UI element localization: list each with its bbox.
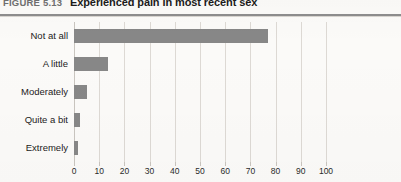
x-tick-label-90: 90: [296, 166, 305, 176]
figure-container: FIGURE 5.13 Experienced pain in most rec…: [0, 0, 401, 182]
bar-a-little: [74, 57, 108, 71]
gridline-50: [200, 22, 201, 162]
bar-not-at-all: [74, 29, 268, 43]
category-label-not-at-all: Not at all: [2, 30, 68, 41]
x-tick-label-30: 30: [145, 166, 154, 176]
gridline-70: [250, 22, 251, 162]
title-divider-rule-secondary: [0, 16, 401, 17]
figure-number-label: FIGURE 5.13: [3, 0, 62, 8]
gridline-100: [326, 22, 327, 162]
category-label-extremely: Extremely: [2, 142, 68, 153]
value-axis-tick-labels: 0102030405060708090100: [74, 166, 334, 180]
gridline-30: [150, 22, 151, 162]
gridline-10: [99, 22, 100, 162]
gridline-90: [301, 22, 302, 162]
gridline-20: [124, 22, 125, 162]
x-tick-label-40: 40: [170, 166, 179, 176]
category-label-moderately: Moderately: [2, 86, 68, 97]
gridline-60: [225, 22, 226, 162]
gridline-80: [276, 22, 277, 162]
bar-extremely: [74, 141, 78, 155]
x-tick-label-60: 60: [220, 166, 229, 176]
x-tick-label-20: 20: [120, 166, 129, 176]
x-tick-label-10: 10: [94, 166, 103, 176]
category-axis-labels: Not at allA littleModeratelyQuite a bitE…: [0, 22, 68, 162]
figure-title-block: FIGURE 5.13 Experienced pain in most rec…: [0, 0, 401, 14]
x-tick-label-0: 0: [72, 166, 77, 176]
x-tick-label-70: 70: [246, 166, 255, 176]
category-label-a-little: A little: [2, 58, 68, 69]
figure-title-text: Experienced pain in most recent sex: [70, 0, 257, 8]
x-tick-label-100: 100: [319, 166, 333, 176]
category-label-quite-a-bit: Quite a bit: [2, 114, 68, 125]
x-tick-label-80: 80: [271, 166, 280, 176]
bar-quite-a-bit: [74, 113, 80, 127]
plot-area: [74, 22, 326, 162]
x-tick-label-50: 50: [195, 166, 204, 176]
bar-moderately: [74, 85, 87, 99]
gridline-40: [175, 22, 176, 162]
